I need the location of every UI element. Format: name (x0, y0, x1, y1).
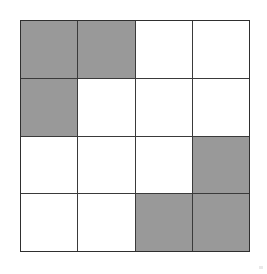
grid-cell-r3c2[interactable] (78, 136, 135, 194)
grid-cell-r3c3[interactable] (135, 136, 192, 194)
grid-cell-r4c1[interactable] (21, 194, 78, 252)
grid-row (21, 194, 250, 252)
grid-cell-r2c2[interactable] (78, 78, 135, 136)
scan-artifact (259, 266, 263, 269)
grid-row (21, 21, 250, 79)
grid-cell-r1c3[interactable] (135, 21, 192, 79)
grid-cell-r3c1[interactable] (21, 136, 78, 194)
grid-cell-r2c3[interactable] (135, 78, 192, 136)
grid-cell-r2c1[interactable] (21, 78, 78, 136)
grid-cell-r1c2[interactable] (78, 21, 135, 79)
grid-figure (20, 20, 250, 252)
grid-cell-r1c4[interactable] (192, 21, 249, 79)
grid-row (21, 78, 250, 136)
grid-row (21, 136, 250, 194)
grid-cell-r1c1[interactable] (21, 21, 78, 79)
grid-table (20, 20, 250, 252)
grid-cell-r4c4[interactable] (192, 194, 249, 252)
grid-cell-r4c3[interactable] (135, 194, 192, 252)
grid-cell-r3c4[interactable] (192, 136, 249, 194)
grid-body (21, 21, 250, 252)
grid-cell-r2c4[interactable] (192, 78, 249, 136)
grid-cell-r4c2[interactable] (78, 194, 135, 252)
